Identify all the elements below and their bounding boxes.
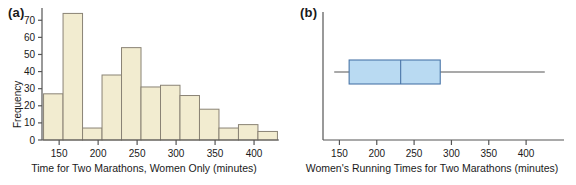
panel-a-histogram: (a) Frequency Time for Two Marathons, Wo…: [0, 0, 288, 185]
histogram-bar: [63, 13, 82, 140]
x-tick-label: 300: [443, 148, 460, 159]
x-tick-label: 150: [331, 148, 348, 159]
histogram-bar: [83, 128, 102, 140]
histogram-bar: [219, 128, 238, 140]
y-tick-label: 40: [24, 66, 36, 77]
y-tick-label: 20: [24, 100, 36, 111]
panel-b-plot-area: 150200250300350400: [288, 0, 576, 185]
panel-a-plot-area: 010203040506070150200250300350400: [0, 0, 288, 185]
histogram-bar: [161, 85, 180, 140]
histogram-bar: [141, 87, 160, 140]
x-tick-label: 200: [368, 148, 385, 159]
y-tick-label: 70: [24, 15, 36, 26]
histogram-bar: [180, 96, 199, 140]
y-tick-label: 10: [24, 117, 36, 128]
x-tick-label: 350: [207, 148, 224, 159]
x-tick-label: 350: [480, 148, 497, 159]
x-tick-label: 400: [246, 148, 263, 159]
histogram-bar: [44, 94, 63, 140]
histogram-bar: [199, 109, 218, 140]
histogram-bars: [44, 13, 278, 140]
histogram-bar: [238, 125, 257, 140]
x-axis-ticks: 150200250300350400: [51, 140, 263, 159]
x-tick-label: 250: [129, 148, 146, 159]
panel-b-boxplot: (b) Women's Running Times for Two Marath…: [288, 0, 576, 185]
x-axis-ticks: 150200250300350400: [331, 140, 535, 159]
histogram-bar: [122, 48, 141, 140]
y-tick-label: 0: [29, 135, 35, 146]
y-tick-label: 30: [24, 83, 36, 94]
histogram-bar: [102, 75, 121, 140]
x-tick-label: 400: [518, 148, 535, 159]
y-tick-label: 60: [24, 32, 36, 43]
y-tick-label: 50: [24, 49, 36, 60]
x-tick-label: 300: [168, 148, 185, 159]
boxplot-box: [349, 60, 440, 84]
x-tick-label: 150: [51, 148, 68, 159]
histogram-bar: [258, 131, 277, 140]
x-tick-label: 250: [406, 148, 423, 159]
y-axis-ticks: 010203040506070: [24, 15, 42, 146]
x-tick-label: 200: [90, 148, 107, 159]
